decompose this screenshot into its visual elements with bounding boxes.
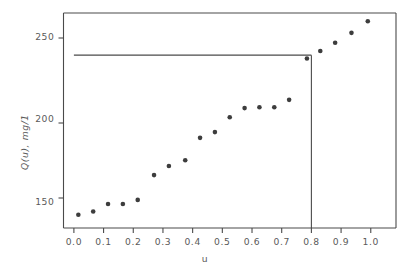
x-tick-label: 0.7 bbox=[273, 236, 289, 247]
y-tick-label: 200 bbox=[35, 113, 54, 124]
data-point bbox=[121, 202, 126, 207]
x-tick-label: 0.3 bbox=[155, 236, 171, 247]
data-point bbox=[91, 209, 96, 214]
x-tick-label: 1.0 bbox=[363, 236, 379, 247]
data-point bbox=[318, 49, 323, 54]
chart-background bbox=[0, 0, 409, 274]
x-tick-label: 0.1 bbox=[95, 236, 111, 247]
data-point bbox=[333, 40, 338, 45]
x-tick-label: 0.8 bbox=[303, 236, 319, 247]
x-tick-label: 0.5 bbox=[214, 236, 230, 247]
y-axis-label: Q(u), mg/1 bbox=[19, 114, 30, 170]
data-point bbox=[242, 106, 247, 111]
data-point bbox=[349, 31, 354, 36]
scatter-chart: 150200250 0.00.10.20.30.40.50.60.70.80.9… bbox=[0, 0, 409, 274]
data-point bbox=[152, 173, 157, 178]
data-point bbox=[198, 136, 203, 141]
data-point bbox=[135, 198, 140, 203]
y-tick-label: 150 bbox=[35, 196, 54, 207]
data-point bbox=[365, 19, 370, 24]
data-point bbox=[272, 105, 277, 110]
data-point bbox=[227, 115, 232, 120]
data-point bbox=[106, 202, 111, 207]
data-point bbox=[183, 158, 188, 163]
y-tick-label: 250 bbox=[35, 31, 54, 42]
x-axis-label: u bbox=[202, 253, 208, 264]
data-point bbox=[213, 130, 218, 135]
data-point bbox=[76, 212, 81, 217]
x-tick-label: 0.6 bbox=[244, 236, 260, 247]
data-point bbox=[287, 98, 292, 103]
x-tick-label: 0.0 bbox=[66, 236, 82, 247]
x-tick-label: 0.4 bbox=[184, 236, 200, 247]
data-point bbox=[257, 105, 262, 110]
x-tick-label: 0.2 bbox=[125, 236, 141, 247]
data-point bbox=[167, 164, 172, 169]
x-tick-label: 0.9 bbox=[333, 236, 349, 247]
data-point bbox=[305, 56, 310, 61]
